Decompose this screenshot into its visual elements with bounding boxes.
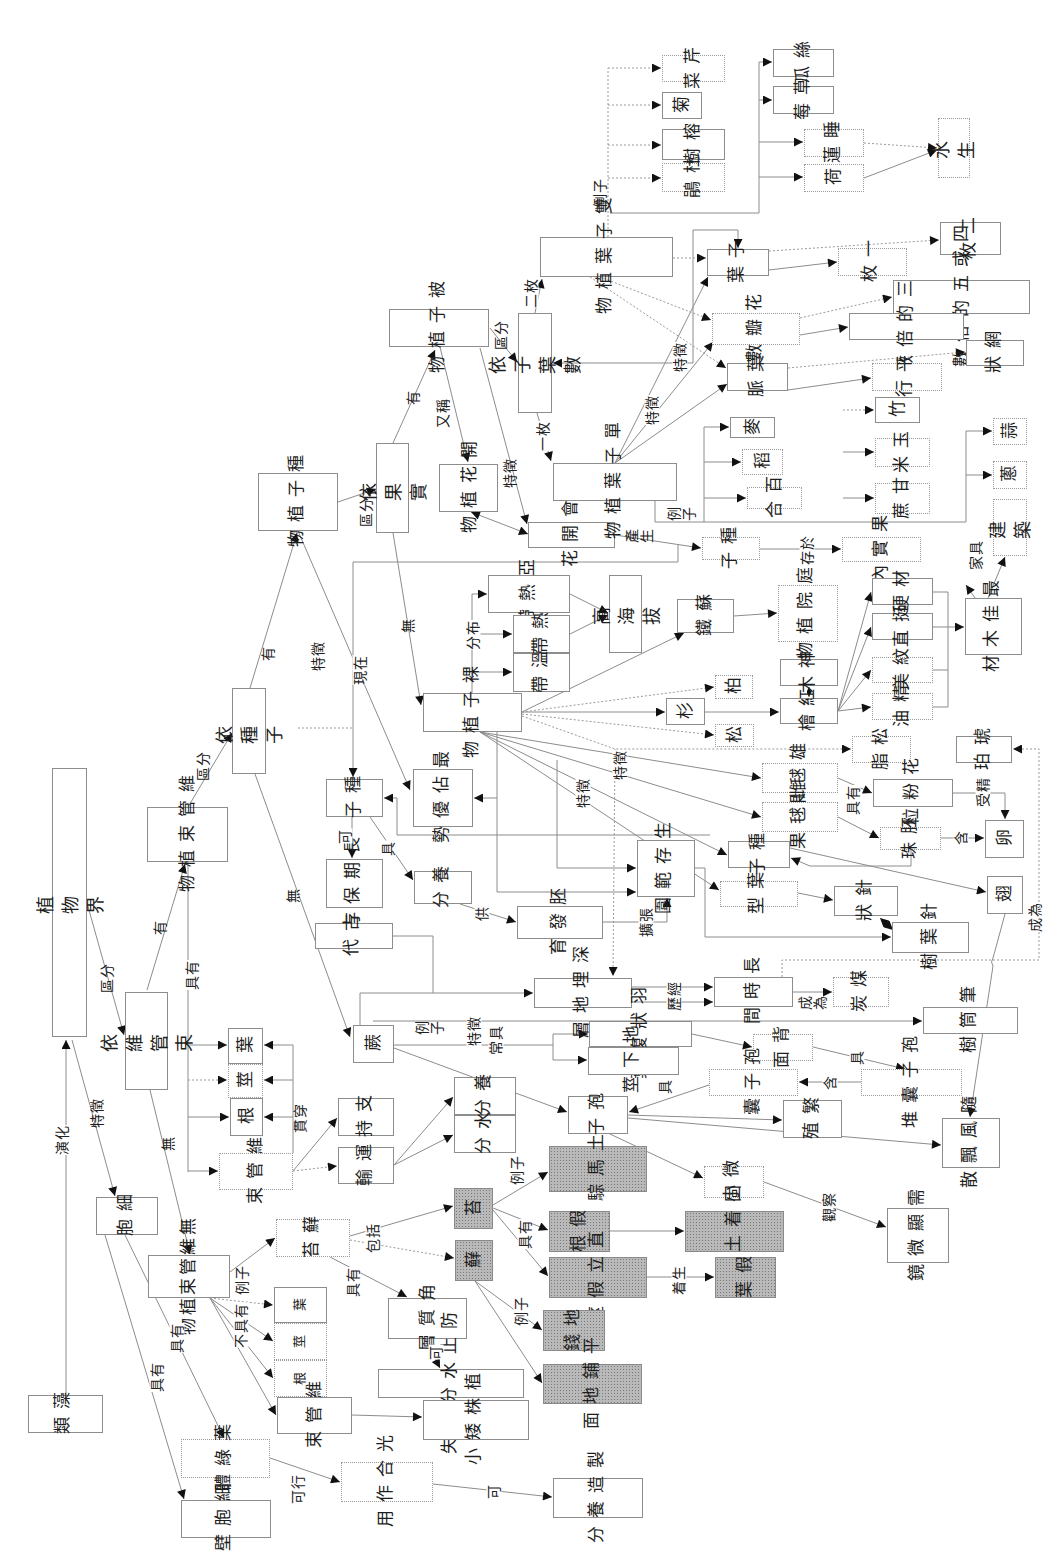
- node-text: 荷: [824, 166, 844, 191]
- edge-label: 例子: [235, 1265, 250, 1295]
- edge-label: 無: [286, 888, 301, 903]
- node-seed-gymno: 種子: [728, 841, 790, 868]
- node-text: 一枚: [860, 237, 886, 287]
- node-needle: 針狀: [834, 886, 898, 916]
- node-tree-fern: 筆筒樹: [923, 1007, 1018, 1034]
- node-text: 草莓: [792, 75, 815, 125]
- node-text: 光合作用: [376, 1432, 398, 1532]
- node-text: 依維管束: [97, 1030, 197, 1052]
- node-text: 莖: [236, 1069, 256, 1094]
- edge-label: 特徵: [673, 342, 688, 372]
- edge-label: 又稱: [436, 398, 451, 428]
- node-one-leaf: 一枚: [838, 248, 907, 276]
- node-ovule: 胚珠: [880, 827, 941, 850]
- edge-label: 具有: [185, 960, 200, 990]
- node-temperate: 溫帶: [513, 653, 570, 692]
- node-sporangium: 孢子囊: [709, 1069, 798, 1096]
- edge-label: 例子: [667, 508, 697, 523]
- node-rice: 稻: [742, 449, 783, 475]
- edge-label: 家具: [969, 540, 984, 570]
- node-coal: 煤炭: [833, 977, 889, 1007]
- node-make-nutrients: 製造養分: [553, 1478, 643, 1518]
- node-text: 製造養分: [587, 1448, 609, 1548]
- node-text: 開花 植物: [457, 438, 480, 538]
- node-three-multiple: 三的倍數: [849, 313, 964, 340]
- node-text: 筆筒樹: [959, 983, 983, 1058]
- edge-label: 常具: [489, 1025, 504, 1055]
- node-water-lily: 睡蓮: [804, 129, 864, 157]
- node-text: 維管束: [246, 1134, 267, 1209]
- edge-label: 包括: [366, 1223, 381, 1253]
- edge-label: 供: [475, 906, 490, 921]
- edge-label: 現在: [353, 655, 368, 685]
- node-text: 竹: [888, 398, 908, 423]
- node-text: 單子葉植物: [604, 420, 627, 545]
- node-photosynthesis: 光合作用: [341, 1462, 433, 1502]
- node-text: 依種子: [212, 718, 287, 744]
- node-text: 蘇鐵: [695, 591, 717, 641]
- edge-label: 具有: [170, 1323, 185, 1353]
- edge-label: 例子: [514, 1296, 529, 1326]
- node-text: 依子葉數: [485, 352, 585, 374]
- node-text: 雙子葉植物: [595, 195, 619, 320]
- node-text: 平鋪地面: [582, 1334, 604, 1434]
- node-long-storage: 長期 保存: [326, 859, 383, 908]
- node-text: 蕨: [364, 1032, 384, 1057]
- edge-label: 特徵: [467, 1016, 482, 1046]
- node-chloroplast: 葉綠體: [181, 1439, 270, 1478]
- edge-label: 具有: [846, 785, 861, 815]
- edge-label: 無: [401, 618, 416, 633]
- node-gymnosperms: 裸子植物: [423, 693, 522, 732]
- node-text: 蘚苔: [302, 1213, 325, 1263]
- node-text: 根: [237, 1105, 257, 1130]
- node-text: 甘蔗: [891, 474, 914, 524]
- node-text: 支持: [355, 1092, 378, 1142]
- node-text: 建築: [985, 517, 1035, 539]
- edge-label: 特徵: [645, 395, 660, 425]
- edge-label: 特徵: [576, 778, 591, 808]
- edge-label: 特徵: [503, 458, 518, 488]
- edge-label: 有: [261, 646, 276, 661]
- node-angiosperms: 被子植物: [389, 309, 489, 347]
- edge-label: 特徵: [311, 641, 326, 671]
- node-vascular-plants: 維管束 植物: [147, 807, 228, 862]
- node-root-vascular: 根: [230, 1098, 263, 1136]
- edge-label: 成為: [1028, 902, 1043, 932]
- node-leaf-vein: 葉脈: [727, 363, 788, 391]
- node-haircap-moss: 土馬騌: [549, 1146, 647, 1192]
- node-text: 藻類: [52, 1389, 79, 1439]
- node-dominant: 最佔 優勢: [413, 769, 473, 827]
- node-essential-oil: 精油: [872, 693, 933, 720]
- node-text: 需顯 微鏡: [905, 1186, 932, 1286]
- node-lotus: 荷: [804, 164, 864, 192]
- edge-label: 特徵: [613, 750, 628, 780]
- edge-label: 存於: [800, 535, 815, 565]
- node-text: 葉: [293, 1293, 309, 1318]
- node-text: 芹菜: [682, 44, 705, 94]
- node-azalea: 杜鵑: [662, 163, 725, 192]
- node-text: 長時間: [742, 955, 765, 1030]
- node-text: 柏: [724, 675, 744, 700]
- node-aquatic: 水生: [938, 118, 970, 178]
- edge-label: 具有: [150, 1362, 165, 1392]
- node-support: 支持: [338, 1098, 394, 1136]
- edge-label: 有: [406, 390, 421, 405]
- node-text: 精油: [891, 682, 914, 732]
- edge-label: 可: [487, 1484, 502, 1499]
- node-text: 網狀: [984, 328, 1007, 378]
- node-spore: 孢子: [568, 1096, 628, 1134]
- node-cotyledon: 子葉: [707, 249, 769, 276]
- node-text: 針狀: [855, 876, 878, 926]
- node-false-leaf: 假葉: [715, 1257, 776, 1298]
- node-text: 杜鵑: [682, 153, 705, 203]
- node-bundle-vascular: 維管束: [219, 1153, 293, 1190]
- node-text: 背面: [772, 1023, 795, 1073]
- node-cypress: 柏: [715, 675, 753, 699]
- node-high-altitude: 高海拔: [609, 575, 642, 653]
- node-leaf-nonvascular: 葉: [274, 1287, 327, 1323]
- node-text: 會開花: [560, 498, 583, 573]
- node-text: 養分: [432, 863, 455, 913]
- edge-label: 貫穿: [293, 1103, 308, 1133]
- node-text: 最佳 木材: [980, 577, 1008, 677]
- edge-label: 分布: [466, 620, 481, 650]
